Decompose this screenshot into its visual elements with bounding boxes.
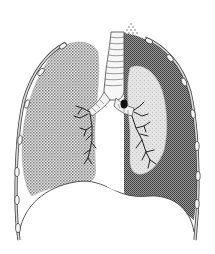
trachea [104,32,124,100]
bronchus-opening [121,100,128,109]
air-bubble-dots [124,23,137,33]
lung-illustration-svg [0,0,215,254]
left-lung-normal [22,42,99,196]
lung-diagram [0,0,215,254]
mediastinum [96,119,124,191]
